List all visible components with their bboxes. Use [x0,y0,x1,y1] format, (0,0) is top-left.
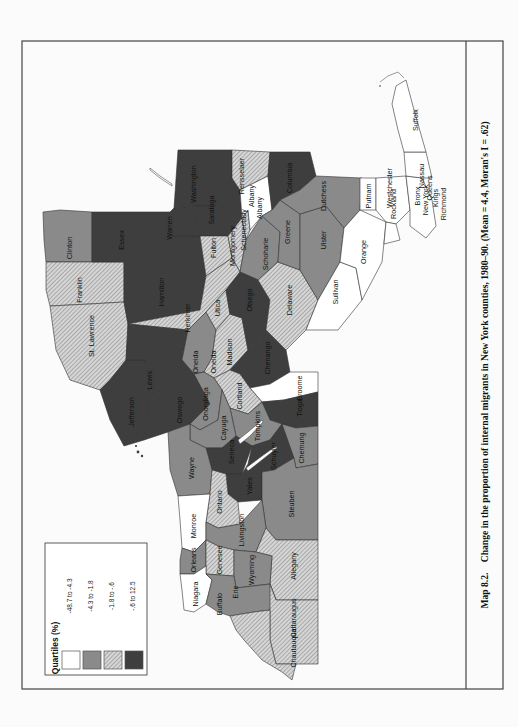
label-erie: Erie [231,586,240,599]
legend-swatch-white [62,651,80,669]
caption-label: Map 8.2. [479,573,490,609]
label-oswego: Oswego [175,397,184,423]
label-livingston: Livingston [237,514,246,546]
map-figure-page: Clinton Franklin St. Lawrence Essex Hami… [0,0,518,727]
label-wayne: Wayne [187,457,196,479]
island-dot [379,85,381,87]
legend-title: Quartiles (%) [50,622,60,675]
label-madison: Madison [225,338,234,365]
legend-swatch-dark [125,651,143,669]
legend-label-4: -.6 to 12.5 [129,581,136,611]
label-warren: Warren [165,216,174,239]
label-albany-2: Albany [255,197,264,219]
label-montgomery: Montgomery [228,226,237,266]
label-buffalo: Buffalo [215,593,224,615]
label-hamilton: Hamilton [157,278,166,306]
label-otsego: Otsego [245,288,254,311]
county-franklin[interactable] [46,262,124,306]
label-tioga: Tioga [295,399,304,417]
label-cortland: Cortland [235,382,244,409]
label-onondaga: Onondaga [201,387,210,421]
legend-swatch-hatched [104,651,122,669]
county-rockland[interactable] [384,222,400,244]
label-cayuga: Cayuga [219,416,228,441]
label-allegany: Allegany [289,552,298,580]
label-ontario: Ontario [215,490,224,514]
label-schoharie: Schoharie [261,238,270,270]
label-steuben: Steuben [287,491,296,518]
thousand-islands [135,445,143,457]
label-richmond: Richmond [439,188,448,220]
label-delaware: Delaware [285,285,294,315]
label-essex: Essex [117,230,126,250]
label-chenango: Chenango [263,341,272,374]
label-suffolk: Suffolk [411,109,420,131]
caption-body: Change in the proportion of internal mig… [479,121,491,562]
lake-champlain [150,168,172,186]
label-ulster: Ulster [319,230,328,249]
label-tompkins: Tompkins [253,410,262,441]
label-oneida: Oneida [191,350,200,373]
label-saratoga: Saratoga [207,195,216,224]
label-greene: Greene [283,220,292,244]
label-franklin: Franklin [75,277,84,303]
label-lewis: Lewis [145,370,154,389]
legend-label-1: -48.7 to -4.3 [66,578,73,613]
label-niagara: Niagara [191,581,200,606]
legend-label-2: -4.3 to -1.8 [87,580,94,612]
label-herkimer: Herkimer [183,303,192,333]
label-washington: Washington [189,165,198,203]
label-orleans: Orleans [189,547,198,573]
label-schenectady: Schenectady [239,209,248,251]
label-broome: Broome [295,375,304,400]
label-schuyler: Schuyler [269,441,278,470]
legend-label-3: -1.8 to -.6 [108,582,115,610]
label-clinton: Clinton [65,237,74,259]
label-monroe: Monroe [189,514,198,538]
label-columbia: Columbia [285,163,294,193]
county-suffolk[interactable] [392,80,426,152]
label-rensselaer: Rensselaer [237,157,246,194]
label-wyoming: Wyoming [247,555,256,585]
label-yates: Yates [245,477,254,495]
label-sullivan: Sullivan [331,279,340,304]
label-utica: Utica [213,300,222,316]
label-dutchess: Dutchess [319,181,328,211]
legend-swatch-medium-gray [83,651,101,669]
label-oneida-2: Oneida [209,350,218,373]
long-island-north-fork [380,72,404,82]
label-rockland: Rockland [389,189,398,219]
legend: Quartiles (%) -48.7 to -4.3 -4.3 to -1.8… [45,543,147,675]
caption-text: Map 8.2. Change in the proportion of int… [479,121,491,608]
label-jefferson: Jefferson [127,397,136,426]
label-genesee: Genesee [215,545,224,574]
label-fulton: Fulton [209,238,218,258]
label-chemung: Chemung [297,432,306,463]
label-st-lawrence: St. Lawrence [87,315,96,357]
label-orange: Orange [359,240,368,264]
label-seneca: Seneca [227,440,236,464]
label-chautauqua: Chautauqua [289,628,298,667]
label-putnam: Putnam [364,184,373,209]
figure-caption: Map 8.2. Change in the proportion of int… [479,121,491,608]
